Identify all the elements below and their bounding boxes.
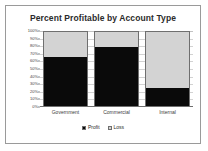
legend-swatch-loss-icon	[108, 126, 112, 130]
x-axis-category-label: Commercial	[94, 110, 139, 115]
stacked-bar[interactable]	[94, 31, 139, 107]
stacked-bar[interactable]	[145, 31, 190, 107]
legend-item[interactable]: Profit	[82, 125, 100, 130]
legend-label: Loss	[114, 125, 125, 130]
y-axis-tick-label: 50%	[30, 67, 38, 71]
legend-label: Profit	[88, 125, 100, 130]
y-axis-tick-label: 90%	[30, 37, 38, 41]
legend-swatch-profit-icon	[82, 126, 86, 130]
bar-segment-profit[interactable]	[44, 57, 87, 106]
plot-area	[40, 31, 193, 107]
y-axis-tick-label: 10%	[30, 97, 38, 101]
stacked-bar[interactable]	[43, 31, 88, 107]
y-axis: 100%90%80%70%60%50%40%30%20%10%0%	[6, 31, 40, 107]
y-axis-tick-label: 30%	[30, 82, 38, 86]
y-axis-tick-label: 60%	[30, 59, 38, 63]
y-axis-tick-label: 70%	[30, 52, 38, 56]
x-axis-category-labels: GovernmentCommercialInternal	[40, 110, 193, 122]
chart-legend: ProfitLoss	[6, 125, 200, 130]
y-axis-tick-label: 40%	[30, 75, 38, 79]
y-axis-tick-label: 20%	[30, 90, 38, 94]
chart-title: Percent Profitable by Account Type	[6, 13, 200, 23]
y-axis-tick-label: 100%	[28, 29, 38, 33]
x-axis-category-label: Government	[43, 110, 88, 115]
bar-segment-profit[interactable]	[95, 47, 138, 106]
x-axis-category-label: Internal	[145, 110, 190, 115]
legend-item[interactable]: Loss	[108, 125, 125, 130]
chart-frame: Percent Profitable by Account Type 100%9…	[5, 5, 201, 144]
bar-segment-loss[interactable]	[44, 32, 87, 59]
bar-segment-loss[interactable]	[146, 32, 189, 90]
bar-segment-profit[interactable]	[146, 88, 189, 106]
y-axis-tick-label: 80%	[30, 44, 38, 48]
